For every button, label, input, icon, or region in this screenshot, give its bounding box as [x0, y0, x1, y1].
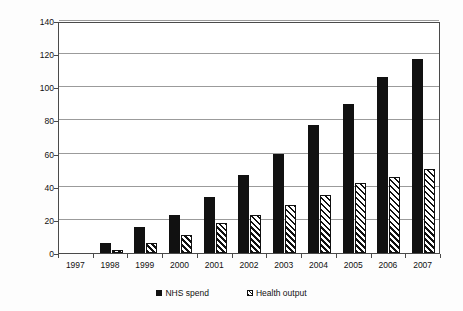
bar-group: [302, 23, 337, 253]
y-axis-tick-labels: 020406080100120140: [24, 0, 54, 311]
x-tick-mark: [336, 254, 337, 258]
bar-nhs-spend: [412, 59, 423, 253]
y-tick-label: 60: [28, 151, 54, 159]
y-tick-label: 120: [28, 51, 54, 59]
bar-nhs-spend: [169, 215, 180, 253]
y-tick-label: 40: [28, 184, 54, 192]
x-tick-mark: [58, 254, 59, 258]
y-tick-mark: [54, 55, 58, 56]
bar-health-output: [181, 235, 192, 253]
legend-swatch-health-output: [247, 290, 253, 296]
bar-nhs-spend: [343, 104, 354, 253]
x-tick-mark: [405, 254, 406, 258]
bar-health-output: [216, 223, 227, 253]
bar-group: [128, 23, 163, 253]
legend-label: Health output: [256, 288, 307, 298]
bar-health-output: [250, 215, 261, 253]
bar-chart: Percentage increase (1997 base) 02040608…: [0, 0, 463, 311]
legend-label: NHS spend: [165, 288, 208, 298]
y-tick-label: 100: [28, 84, 54, 92]
bar-nhs-spend: [238, 175, 249, 253]
x-tick-mark: [162, 254, 163, 258]
gridline: [59, 20, 439, 21]
x-tick-mark: [266, 254, 267, 258]
y-tick-mark: [54, 188, 58, 189]
y-tick-mark: [54, 22, 58, 23]
bar-health-output: [112, 250, 123, 253]
bar-nhs-spend: [308, 125, 319, 253]
y-tick-mark: [54, 254, 58, 255]
bar-health-output: [355, 183, 366, 253]
legend-item: NHS spend: [156, 288, 208, 298]
bar-group: [59, 23, 94, 253]
bar-group: [267, 23, 302, 253]
bar-health-output: [285, 205, 296, 253]
x-tick-mark: [301, 254, 302, 258]
bar-group: [406, 23, 441, 253]
bar-health-output: [146, 243, 157, 253]
bar-nhs-spend: [134, 227, 145, 254]
bar-group: [233, 23, 268, 253]
x-tick-mark: [197, 254, 198, 258]
y-tick-label: 0: [28, 250, 54, 258]
bar-health-output: [389, 177, 400, 253]
bar-group: [163, 23, 198, 253]
legend-swatch-nhs-spend: [156, 290, 162, 296]
x-tick-mark: [127, 254, 128, 258]
bar-group: [372, 23, 407, 253]
x-tick-mark: [232, 254, 233, 258]
legend-item: Health output: [247, 288, 307, 298]
chart-legend: NHS spendHealth output: [0, 285, 463, 301]
plot-area: [58, 22, 440, 254]
x-tick-mark: [371, 254, 372, 258]
bar-nhs-spend: [273, 154, 284, 253]
bar-group: [198, 23, 233, 253]
bar-health-output: [320, 195, 331, 253]
y-tick-mark: [54, 121, 58, 122]
x-tick-mark: [93, 254, 94, 258]
bar-nhs-spend: [204, 197, 215, 253]
bar-nhs-spend: [377, 77, 388, 253]
bar-nhs-spend: [100, 243, 111, 253]
y-tick-label: 80: [28, 117, 54, 125]
y-tick-mark: [54, 88, 58, 89]
x-axis-tick-labels: 1997199819992000200120022003200420052006…: [58, 259, 440, 273]
y-tick-label: 140: [28, 18, 54, 26]
y-tick-mark: [54, 221, 58, 222]
y-tick-mark: [54, 155, 58, 156]
bars-layer: [59, 23, 439, 253]
x-tick-label: 2007: [403, 259, 443, 271]
bar-group: [94, 23, 129, 253]
bar-group: [337, 23, 372, 253]
bar-health-output: [424, 169, 435, 254]
x-tick-mark: [440, 254, 441, 258]
y-tick-label: 20: [28, 217, 54, 225]
